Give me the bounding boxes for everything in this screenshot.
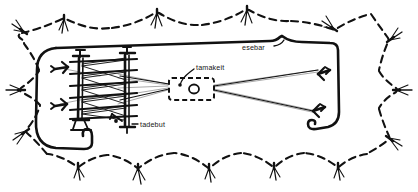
scalloped-dashed-border: [19, 10, 397, 169]
border-arc-right-3: [368, 109, 389, 153]
label-tadebut: tadebut: [140, 120, 165, 129]
label-esebar: esebar: [242, 43, 265, 52]
plant-mark: [393, 85, 412, 95]
rope-line: [214, 90, 313, 111]
border-arc-bottom-4: [108, 153, 174, 168]
plant-mark: [74, 163, 84, 180]
rope-line: [214, 70, 318, 86]
inner-outline: [36, 36, 339, 149]
diagram-canvas: esebar tamakeit tadebut: [0, 0, 418, 192]
warp-rack: [70, 47, 137, 133]
stake: [51, 99, 67, 110]
thread: [214, 91, 312, 112]
plant-mark: [151, 9, 162, 28]
plant-mark: [387, 28, 402, 42]
tamakeit-box-circle: [189, 85, 199, 94]
plant-mark: [12, 20, 27, 34]
plant-mark: [241, 6, 252, 25]
inner-outline-path-right: [282, 36, 339, 129]
border-arc-left-3: [19, 33, 39, 70]
border-plant-marks: [6, 6, 412, 184]
plant-mark: [13, 129, 29, 144]
tamakeit-box: [169, 69, 214, 100]
label-tamakeit: tamakeit: [196, 63, 224, 72]
stake: [318, 67, 330, 80]
plant-mark: [59, 15, 68, 33]
plant-mark: [386, 136, 402, 150]
thread: [214, 89, 312, 110]
tamakeit-box-outline: [169, 78, 214, 100]
sketch-diagram: esebar tamakeit tadebut: [0, 0, 418, 192]
thread: [214, 72, 318, 87]
stake: [51, 62, 68, 73]
stake: [313, 104, 325, 117]
border-arc-bottom-1: [305, 153, 367, 167]
rack-dot: [114, 119, 118, 123]
rack-wrapped-threads: [82, 58, 126, 120]
